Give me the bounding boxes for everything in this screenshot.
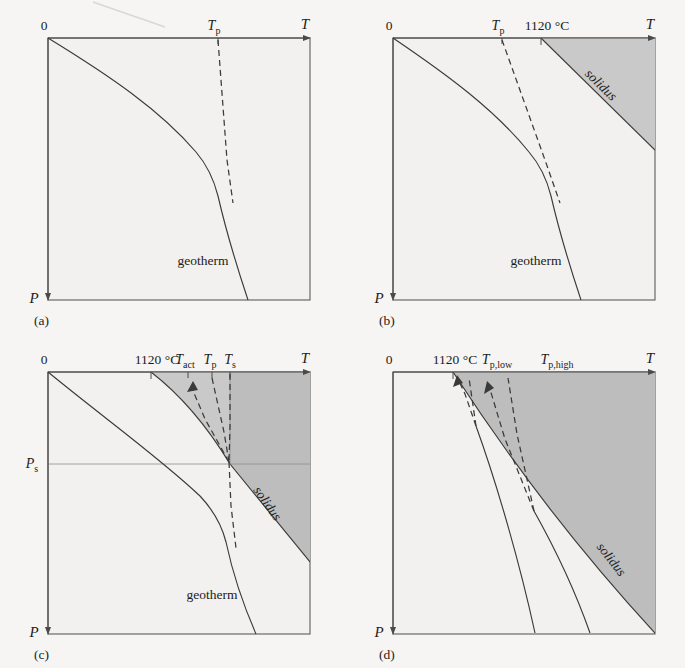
tick-label-tp-high: Tp,high [540, 352, 573, 370]
panel-caption-a: (a) [34, 313, 49, 328]
tick-label-tp: Tp [204, 352, 217, 370]
panel-d: 0 1120 °C Tp,low Tp,high T P solidus (d) [345, 334, 685, 668]
origin-label: 0 [41, 18, 48, 33]
pressure-axis-label: P [28, 290, 38, 306]
panel-b: 0 Tp 1120 °C T P solidus geotherm (b) [345, 0, 685, 334]
pressure-axis-label: P [373, 624, 383, 640]
origin-label: 0 [386, 352, 393, 367]
tick-label-tp: Tp [208, 18, 221, 36]
pressure-axis-label: P [373, 290, 383, 306]
origin-label: 0 [41, 352, 48, 367]
figure-container: 0 Tp T P geotherm (a) 0 Tp 1120 °C [0, 0, 685, 668]
scan-artifact [93, 2, 165, 27]
tick-label-tact: Tact [175, 352, 195, 370]
panel-a: 0 Tp T P geotherm (a) [0, 0, 340, 334]
origin-label: 0 [386, 18, 393, 33]
pressure-axis-label: P [28, 624, 38, 640]
panel-caption-c: (c) [34, 647, 49, 662]
tick-label-ts: Ts [224, 352, 236, 370]
tick-label-ps: Ps [25, 456, 39, 474]
panel-caption-b: (b) [379, 313, 395, 328]
tick-label-1120: 1120 °C [433, 352, 477, 367]
geotherm-label: geotherm [511, 253, 562, 268]
geotherm-label: geotherm [178, 253, 229, 268]
panel-caption-d: (d) [379, 647, 395, 662]
tick-label-1120: 1120 °C [135, 352, 179, 367]
tick-label-1120: 1120 °C [525, 18, 569, 33]
temperature-axis-label: T [646, 16, 656, 32]
tick-label-tp-low: Tp,low [482, 352, 513, 370]
tick-label-tp: Tp [492, 18, 505, 36]
temperature-axis-label: T [301, 16, 311, 32]
temperature-axis-label: T [646, 350, 656, 366]
panel-c: 0 1120 °C Tact Tp Ts T Ps P solidus geot… [0, 334, 340, 668]
geotherm-label: geotherm [187, 587, 238, 602]
temperature-axis-label: T [301, 350, 311, 366]
